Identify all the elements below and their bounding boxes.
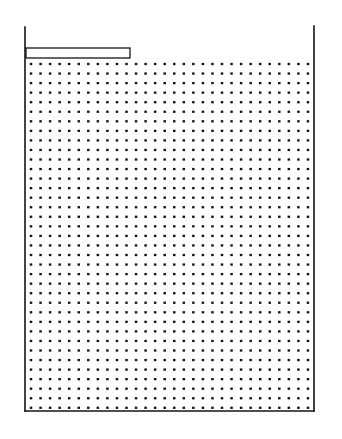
figure-background (0, 0, 342, 439)
vector-tail-dot (97, 158, 100, 160)
vector-tail-dot (307, 120, 310, 122)
vector-tail-dot (259, 63, 262, 65)
vector-tail-dot (221, 168, 224, 170)
vector-tail-dot (192, 283, 195, 285)
vector-tail-dot (173, 72, 176, 74)
vector-tail-dot (192, 349, 195, 351)
vector-tail-dot (249, 225, 252, 227)
vector-tail-dot (144, 283, 147, 285)
vector-tail-dot (78, 63, 81, 65)
vector-tail-dot (125, 388, 128, 390)
vector-tail-dot (78, 254, 81, 256)
vector-tail-dot (202, 263, 205, 265)
vector-tail-dot (144, 321, 147, 323)
vector-tail-dot (183, 359, 186, 361)
vector-tail-dot (192, 359, 195, 361)
vector-tail-dot (49, 187, 52, 189)
vector-tail-dot (288, 120, 291, 122)
vector-tail-dot (49, 311, 52, 313)
vector-tail-dot (39, 197, 42, 199)
vector-tail-dot (116, 330, 119, 332)
vector-tail-dot (288, 368, 291, 370)
vector-tail-dot (154, 263, 157, 265)
vector-tail-dot (163, 321, 166, 323)
vector-tail-dot (249, 72, 252, 74)
vector-tail-dot (183, 378, 186, 380)
vector-tail-dot (240, 82, 243, 84)
vector-tail-dot (144, 388, 147, 390)
vector-tail-dot (68, 92, 71, 94)
vector-tail-dot (307, 378, 310, 380)
vector-tail-dot (173, 378, 176, 380)
vector-tail-dot (97, 273, 100, 275)
vector-tail-dot (183, 235, 186, 237)
vector-tail-dot (116, 235, 119, 237)
vector-tail-dot (58, 168, 61, 170)
vector-tail-dot (125, 177, 128, 179)
vector-tail-dot (211, 302, 214, 304)
vector-tail-dot (230, 235, 233, 237)
vector-tail-dot (202, 302, 205, 304)
vector-tail-dot (230, 130, 233, 132)
vector-tail-dot (154, 388, 157, 390)
vector-tail-dot (211, 368, 214, 370)
inlet-baffle-plate (26, 48, 130, 58)
vector-tail-dot (173, 82, 176, 84)
vector-tail-dot (192, 149, 195, 151)
vector-tail-dot (163, 263, 166, 265)
vector-tail-dot (297, 235, 300, 237)
vector-tail-dot (192, 92, 195, 94)
vector-tail-dot (135, 139, 138, 141)
vector-tail-dot (78, 321, 81, 323)
vector-tail-dot (135, 225, 138, 227)
vector-tail-dot (97, 225, 100, 227)
vector-tail-dot (39, 273, 42, 275)
vector-tail-dot (125, 330, 128, 332)
vector-tail-dot (221, 120, 224, 122)
vector-tail-dot (116, 168, 119, 170)
vector-tail-dot (211, 321, 214, 323)
vector-tail-dot (106, 82, 109, 84)
vector-tail-dot (173, 139, 176, 141)
vector-tail-dot (125, 197, 128, 199)
vector-tail-dot (307, 273, 310, 275)
vector-tail-dot (135, 177, 138, 179)
vector-tail-dot (221, 216, 224, 218)
vector-tail-dot (58, 359, 61, 361)
vector-tail-dot (259, 330, 262, 332)
vector-tail-dot (230, 340, 233, 342)
vector-tail-dot (249, 197, 252, 199)
vector-tail-dot (30, 330, 33, 332)
vector-tail-dot (278, 244, 281, 246)
vector-tail-dot (240, 378, 243, 380)
vector-tail-dot (87, 139, 90, 141)
vector-tail-dot (278, 340, 281, 342)
vector-tail-dot (307, 139, 310, 141)
vector-tail-dot (269, 378, 272, 380)
vector-tail-dot (125, 139, 128, 141)
vector-tail-dot (240, 187, 243, 189)
vector-tail-dot (173, 197, 176, 199)
vector-tail-dot (259, 149, 262, 151)
vector-tail-dot (240, 197, 243, 199)
vector-tail-dot (87, 302, 90, 304)
vector-tail-dot (163, 168, 166, 170)
vector-tail-dot (49, 168, 52, 170)
vector-tail-dot (78, 149, 81, 151)
vector-tail-dot (288, 330, 291, 332)
vector-tail-dot (30, 340, 33, 342)
vector-tail-dot (39, 111, 42, 113)
vector-tail-dot (240, 149, 243, 151)
vector-tail-dot (259, 388, 262, 390)
vector-tail-dot (125, 92, 128, 94)
vector-tail-dot (269, 273, 272, 275)
vector-tail-dot (125, 273, 128, 275)
vector-tail-dot (221, 283, 224, 285)
vector-tail-dot (183, 139, 186, 141)
vector-tail-dot (240, 368, 243, 370)
vector-tail-dot (192, 63, 195, 65)
vector-tail-dot (173, 244, 176, 246)
vector-tail-dot (249, 321, 252, 323)
vector-tail-dot (221, 340, 224, 342)
vector-tail-dot (58, 349, 61, 351)
